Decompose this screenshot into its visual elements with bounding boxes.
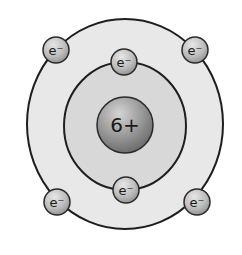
- electron-label: e⁻: [190, 195, 205, 210]
- electron-label: e⁻: [188, 43, 203, 58]
- electron-inner-bottom: e⁻: [113, 177, 139, 203]
- electron-label: e⁻: [49, 43, 64, 58]
- electron-outer-top-left: e⁻: [43, 37, 69, 63]
- atom-diagram: 6+ e⁻ e⁻ e⁻ e⁻ e⁻ e⁻: [0, 0, 242, 255]
- electron-label: e⁻: [119, 183, 134, 198]
- nucleus-charge-label: 6+: [110, 113, 139, 137]
- nucleus: 6+: [97, 97, 153, 153]
- electron-inner-top: e⁻: [111, 49, 137, 75]
- electron-outer-bottom-left: e⁻: [44, 189, 70, 215]
- electron-label: e⁻: [117, 55, 132, 70]
- electron-outer-top-right: e⁻: [182, 37, 208, 63]
- electron-outer-bottom-right: e⁻: [184, 189, 210, 215]
- electron-label: e⁻: [50, 195, 65, 210]
